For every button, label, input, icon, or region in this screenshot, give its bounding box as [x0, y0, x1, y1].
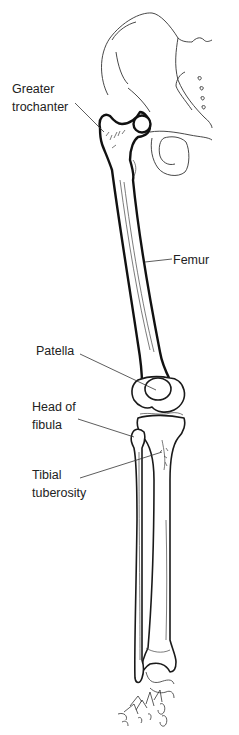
label-tibial-tuberosity-line2: tuberosity [32, 484, 86, 502]
leader-head-of-fibula [78, 419, 134, 437]
label-femur-text: Femur [173, 251, 209, 269]
pubis-ischium [150, 131, 212, 175]
foot-bones-sketch [118, 672, 174, 726]
leader-greater-trochanter [75, 103, 104, 132]
tibia-shaft [137, 415, 185, 672]
sacral-foramina [198, 77, 205, 109]
fibula-shaft [131, 429, 145, 682]
tibia [137, 415, 185, 672]
sacrum-inner-curve [176, 72, 192, 110]
iliac-wing-lower [128, 88, 150, 112]
sacrum-edge [192, 38, 212, 42]
foot [118, 672, 174, 726]
label-greater-trochanter: Greater trochanter [12, 80, 68, 116]
iliac-crest-outline [102, 13, 213, 128]
fibula [131, 429, 145, 682]
label-head-of-fibula-line1: Head of [32, 398, 76, 416]
label-head-of-fibula: Head of fibula [32, 398, 76, 434]
label-femur: Femur [173, 251, 209, 269]
leader-femur [145, 259, 172, 262]
femur-head [134, 116, 151, 133]
label-patella: Patella [36, 342, 74, 360]
label-greater-trochanter-line1: Greater [12, 80, 68, 98]
patella [145, 378, 171, 400]
leader-tibial-tuberosity [80, 452, 162, 478]
label-patella-text: Patella [36, 342, 74, 360]
label-tibial-tuberosity: Tibial tuberosity [32, 466, 86, 502]
label-head-of-fibula-line2: fibula [32, 416, 76, 434]
label-tibial-tuberosity-line1: Tibial [32, 466, 86, 484]
label-greater-trochanter-line2: trochanter [12, 98, 68, 116]
